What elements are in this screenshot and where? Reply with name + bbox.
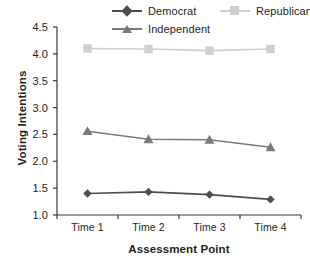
data-point-democrat-1 <box>83 189 91 197</box>
x-axis-ticks <box>57 215 301 219</box>
plot-area <box>0 0 310 265</box>
data-point-republican-3 <box>205 46 213 54</box>
data-series-layer <box>83 44 276 203</box>
data-point-independent-1 <box>83 126 93 135</box>
voting-intentions-line-chart: Democrat Republican Independent Voting I… <box>0 0 310 265</box>
data-point-republican-4 <box>266 45 274 53</box>
data-point-democrat-2 <box>144 188 152 196</box>
data-point-democrat-3 <box>205 190 213 198</box>
data-point-republican-2 <box>144 45 152 53</box>
data-point-democrat-4 <box>266 195 274 203</box>
series-republican <box>83 44 274 55</box>
series-democrat <box>83 188 274 204</box>
data-point-republican-1 <box>83 44 91 52</box>
series-independent <box>83 126 276 151</box>
